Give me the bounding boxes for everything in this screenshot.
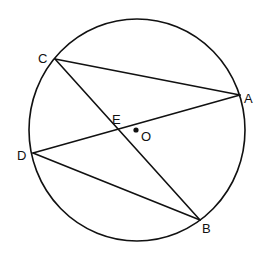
label-d: D (17, 148, 26, 163)
label-e: E (112, 112, 121, 127)
label-a: A (244, 91, 253, 106)
label-c: C (38, 51, 47, 66)
chord-db (33, 153, 200, 220)
chord-da (33, 95, 240, 153)
circle-chord-diagram: A B C D E O (0, 0, 265, 255)
label-o: O (141, 129, 151, 144)
center-point-o (133, 127, 138, 132)
label-b: B (202, 221, 211, 236)
